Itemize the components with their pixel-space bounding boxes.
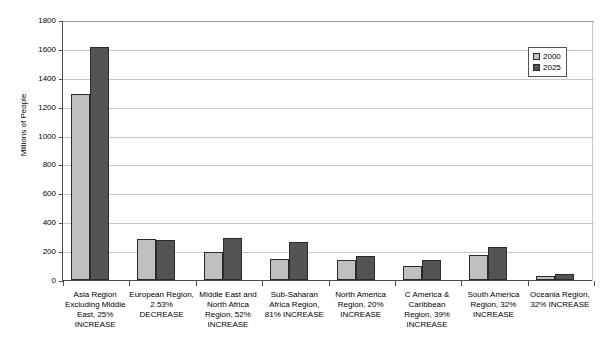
x-axis-tick-mark (594, 281, 595, 286)
y-axis-tick-label: 0 (26, 277, 56, 285)
bar-2000 (204, 252, 223, 280)
bar-2025 (356, 256, 375, 280)
y-axis-tick-label: 200 (26, 248, 56, 256)
bar-2000 (536, 276, 555, 280)
bar-group (329, 20, 395, 280)
x-axis-category-label: South America Region, 32% INCREASE (460, 290, 526, 320)
bar-group (63, 20, 129, 280)
legend-label: 2000 (543, 53, 561, 61)
y-axis-tick-label: 400 (26, 219, 56, 227)
bar-2025 (555, 274, 574, 280)
plot-area (62, 21, 593, 281)
x-axis-category-label: Middle East and North Africa Region, 52%… (195, 290, 261, 330)
legend-label: 2025 (543, 64, 561, 72)
bar-group (196, 20, 262, 280)
x-axis-category-label: Oceania Region, 32% INCREASE (527, 290, 593, 310)
x-axis-tick-mark (461, 281, 462, 286)
x-axis-tick-mark (528, 281, 529, 286)
bar-2000 (403, 266, 422, 280)
chart-legend: 20002025 (528, 47, 567, 77)
bar-chart: Millions of People 20002025 020040060080… (0, 0, 612, 343)
x-axis-category-label: European Region, 2.53% DECREASE (128, 290, 194, 320)
bar-group (262, 20, 328, 280)
bar-group (395, 20, 461, 280)
y-axis-tick-label: 600 (26, 190, 56, 198)
y-axis-tick-label: 1000 (26, 133, 56, 141)
y-axis-tick-label: 1800 (26, 17, 56, 25)
x-axis-tick-mark (395, 281, 396, 286)
legend-swatch-icon (533, 64, 540, 71)
x-axis-tick-mark (196, 281, 197, 286)
bar-group (129, 20, 195, 280)
x-axis-tick-mark (63, 281, 64, 286)
x-axis-tick-mark (329, 281, 330, 286)
bar-2025 (289, 242, 308, 280)
legend-item: 2025 (533, 62, 561, 73)
legend-item: 2000 (533, 51, 561, 62)
bar-2000 (469, 255, 488, 280)
x-axis-category-label: North America Region, 20% INCREASE (328, 290, 394, 320)
x-axis-tick-mark (262, 281, 263, 286)
y-axis-tick-label: 1600 (26, 46, 56, 54)
bar-2025 (223, 238, 242, 280)
bar-group (461, 20, 527, 280)
y-axis-tick-label: 1400 (26, 75, 56, 83)
bar-2025 (422, 260, 441, 280)
legend-swatch-icon (533, 53, 540, 60)
bar-2025 (156, 240, 175, 280)
bar-2000 (137, 239, 156, 280)
bar-2000 (270, 259, 289, 280)
bar-2025 (488, 247, 507, 280)
x-axis-tick-mark (129, 281, 130, 286)
bar-2000 (71, 94, 90, 280)
x-axis-category-label: Asia Region Excluding Middle East, 25% I… (62, 290, 128, 330)
bar-2025 (90, 47, 109, 280)
x-axis-category-label: C America & Caribbean Region, 39% INCREA… (394, 290, 460, 330)
x-axis-category-label: Sub-Saharan Africa Region, 81% INCREASE (261, 290, 327, 320)
y-axis-tick-label: 1200 (26, 104, 56, 112)
y-axis-tick-label: 800 (26, 161, 56, 169)
bar-2000 (337, 260, 356, 280)
